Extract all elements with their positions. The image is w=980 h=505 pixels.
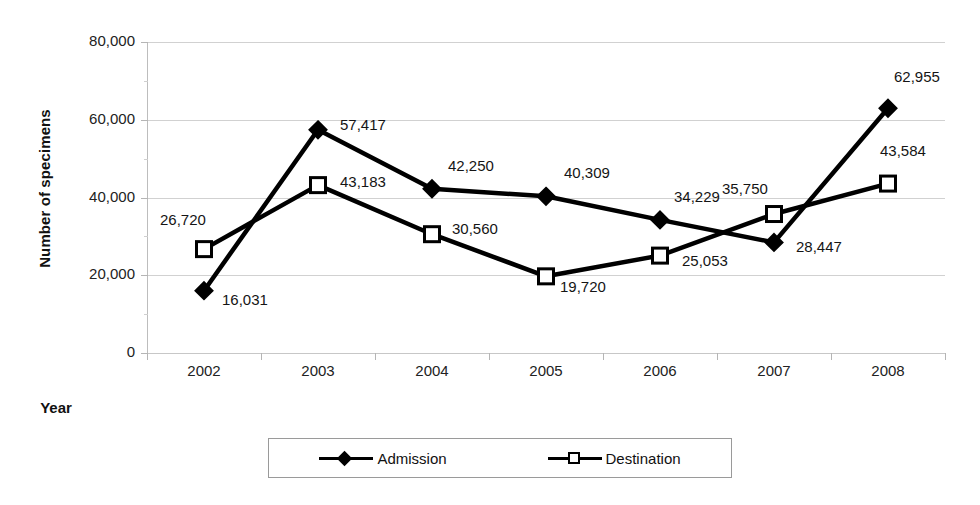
legend-label-destination: Destination [606, 450, 681, 467]
legend-item-destination[interactable]: Destination [548, 450, 681, 467]
data-value-label: 43,584 [880, 142, 926, 159]
filled-diamond-marker-icon [319, 450, 373, 466]
data-value-label: 19,720 [560, 278, 606, 295]
data-point-marker [311, 178, 326, 193]
data-point-marker [881, 176, 896, 191]
data-value-label: 40,309 [564, 164, 610, 181]
data-point-marker [424, 180, 441, 197]
x-axis-title-text: Year [40, 399, 72, 416]
data-point-marker [197, 242, 212, 257]
data-point-marker [425, 227, 440, 242]
legend-item-admission[interactable]: Admission [319, 450, 446, 467]
data-value-label: 26,720 [160, 211, 206, 228]
data-value-label: 62,955 [894, 68, 940, 85]
data-value-label: 35,750 [722, 180, 768, 197]
x-axis-title: Year [0, 399, 980, 416]
data-value-label: 57,417 [340, 116, 386, 133]
data-point-marker [538, 188, 555, 205]
data-point-marker [767, 207, 782, 222]
data-value-label: 43,183 [340, 173, 386, 190]
data-point-marker [652, 211, 669, 228]
data-value-label: 42,250 [448, 157, 494, 174]
data-value-label: 30,560 [452, 220, 498, 237]
data-point-marker [653, 248, 668, 263]
data-point-marker [539, 269, 554, 284]
data-value-label: 16,031 [222, 291, 268, 308]
legend-label-admission: Admission [377, 450, 446, 467]
line-chart: Number of specimens 020,00040,00060,0008… [0, 0, 980, 505]
data-value-label: 25,053 [682, 252, 728, 269]
open-square-marker-icon [548, 450, 602, 466]
data-value-label: 28,447 [796, 238, 842, 255]
data-value-label: 34,229 [674, 188, 720, 205]
chart-legend: Admission Destination [268, 438, 732, 478]
